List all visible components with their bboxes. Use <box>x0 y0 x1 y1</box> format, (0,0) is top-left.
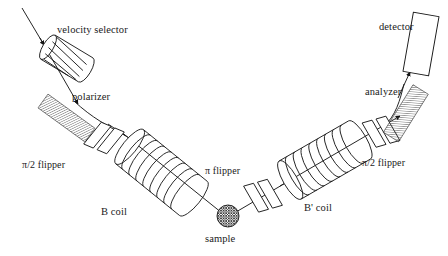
label-pi-half-flipper-right: π/2 flipper <box>362 158 405 168</box>
velocity-selector-blade <box>43 60 69 76</box>
velocity-selector-blade <box>42 54 80 80</box>
velocity-selector-front-face <box>36 33 59 62</box>
label-b-coil: B coil <box>101 207 127 218</box>
label-polarizer: polarizer <box>72 92 110 103</box>
b-prime-coil-top-edge <box>279 121 348 161</box>
beam-path <box>22 8 416 213</box>
label-analyzer: analyzer <box>365 87 401 98</box>
label-b-prime-coil: B' coil <box>304 203 332 214</box>
b-coil-ring <box>159 165 192 204</box>
b-coil-ring <box>138 148 171 187</box>
velocity-selector <box>36 33 97 85</box>
label-pi-half-flipper-left: π/2 flipper <box>22 160 65 170</box>
b-coil-back-face <box>180 181 213 220</box>
label-sample: sample <box>205 234 235 245</box>
b-coil-ring <box>166 171 199 210</box>
velocity-selector-back-face <box>79 58 98 85</box>
b-coil-top-edge <box>144 130 208 182</box>
b-coil-ring <box>145 154 178 193</box>
b-prime-coil-front-face <box>273 157 307 202</box>
sample-disc <box>217 205 239 227</box>
diagram-canvas <box>0 0 448 256</box>
sample <box>217 205 239 227</box>
spin-echo-diagram: velocity selector polarizer π/2 flipper … <box>0 0 448 256</box>
label-pi-flipper: π flipper <box>205 166 240 176</box>
velocity-selector-blade <box>52 37 90 64</box>
label-velocity-selector: velocity selector <box>57 25 128 36</box>
b-prime-coil-bottom-edge <box>301 159 370 199</box>
b-coil-ring <box>152 159 185 198</box>
label-detector: detector <box>379 22 414 33</box>
